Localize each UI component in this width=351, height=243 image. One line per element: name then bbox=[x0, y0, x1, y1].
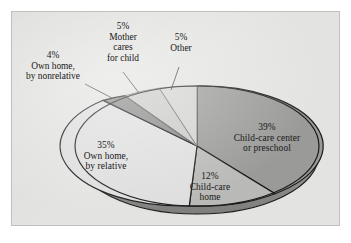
slice-name-own-home-relative-line2: by relative bbox=[53, 161, 159, 172]
slice-name-own-home-relative-line1: Own home, bbox=[53, 151, 159, 162]
leader-line-own-home-nonrelative bbox=[85, 84, 112, 98]
slice-label-other: 5% Other bbox=[156, 32, 206, 53]
slice-name-child-care-center-line2: or preschool bbox=[208, 143, 326, 154]
slice-percent-other: 5% bbox=[156, 32, 206, 43]
slice-label-child-care-home: 12% Child-care home bbox=[167, 171, 253, 203]
slice-name-child-care-center-line1: Child-care center bbox=[208, 133, 326, 144]
slice-name-mother-cares-line1: Mother bbox=[90, 32, 156, 43]
slice-name-child-care-home-line1: Child-care bbox=[167, 182, 253, 193]
slice-name-other-line1: Other bbox=[156, 43, 206, 54]
figure-canvas: 39% Child-care center or preschool 12% C… bbox=[0, 0, 351, 243]
slice-label-mother-cares: 5% Mother cares for child bbox=[90, 21, 156, 63]
slice-percent-child-care-center: 39% bbox=[208, 122, 326, 133]
slice-percent-own-home-relative: 35% bbox=[53, 140, 159, 151]
slice-name-own-home-nonrelative-line1: Own home, bbox=[11, 61, 98, 72]
slice-name-mother-cares-line2: cares bbox=[90, 42, 156, 53]
slice-percent-mother-cares: 5% bbox=[90, 21, 156, 32]
slice-name-child-care-home-line2: home bbox=[167, 192, 253, 203]
slice-percent-child-care-home: 12% bbox=[167, 171, 253, 182]
slice-percent-own-home-nonrelative: 4% bbox=[11, 50, 98, 61]
leader-line-mother-cares bbox=[123, 72, 139, 93]
slice-label-own-home-relative: 35% Own home, by relative bbox=[53, 140, 159, 172]
slice-name-mother-cares-line3: for child bbox=[90, 53, 156, 64]
chart-panel: 39% Child-care center or preschool 12% C… bbox=[11, 11, 340, 226]
slice-label-own-home-nonrelative: 4% Own home, by nonrelative bbox=[11, 50, 98, 82]
slice-name-own-home-nonrelative-line2: by nonrelative bbox=[11, 71, 98, 82]
slice-label-child-care-center: 39% Child-care center or preschool bbox=[208, 122, 326, 154]
